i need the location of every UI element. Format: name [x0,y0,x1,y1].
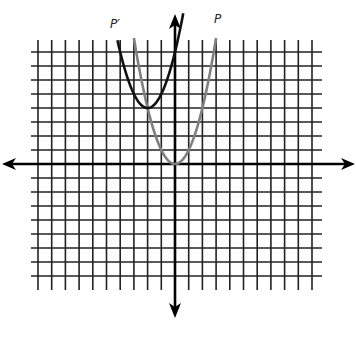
parabolas [117,13,216,164]
axes [2,14,355,318]
coordinate-plane [0,0,356,348]
label-p: P [214,13,221,25]
label-p-prime: P′ [110,18,120,30]
